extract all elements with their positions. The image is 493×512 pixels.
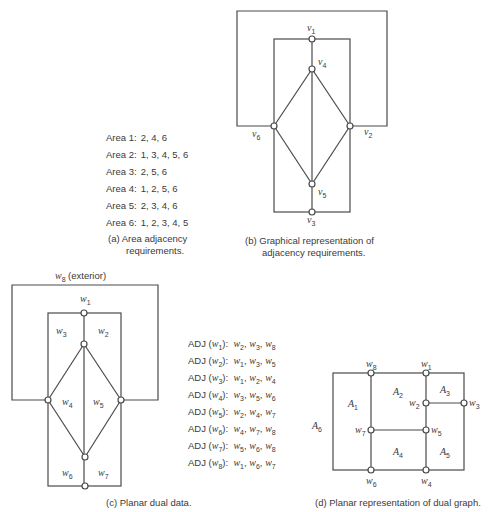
caption-b: (b) Graphical representation of adjacenc… — [245, 235, 374, 259]
dual-adjacency-list: ADJ (w1): w2, w3, w8 ADJ (w2): w1, w3, w… — [188, 338, 276, 474]
adj-row: ADJ (w3): w1, w2, w4 — [188, 372, 276, 389]
label-area-a4: A4 — [393, 446, 403, 459]
label-w7: w7 — [98, 467, 109, 480]
label-d-w5: w5 — [431, 424, 442, 437]
adj-row: ADJ (w5): w2, w4, w7 — [188, 406, 276, 423]
label-area-a3: A3 — [440, 384, 450, 397]
node-w7 — [368, 427, 374, 433]
label-v6: v6 — [252, 128, 260, 141]
node-v1 — [309, 36, 315, 42]
caption-c: (c) Planar dual data. — [106, 497, 192, 509]
area-row: Area 1:2, 4, 6 — [106, 132, 188, 149]
label-area-a6: A6 — [312, 420, 322, 433]
adj-row: ADJ (w1): w2, w3, w8 — [188, 338, 276, 355]
label-w8-exterior: w8 (exterior) — [55, 270, 106, 283]
label-w6: w6 — [62, 467, 73, 480]
adj-row: ADJ (w8): w1, w6, w7 — [188, 457, 276, 474]
node-w4 — [423, 467, 429, 473]
label-d-w3: w3 — [469, 397, 480, 410]
node-v5 — [309, 181, 315, 187]
area-row: Area 5:2, 3, 4, 6 — [106, 200, 188, 217]
area-row: Area 2:1, 3, 4, 5, 6 — [106, 149, 188, 166]
label-d-w4: w4 — [421, 475, 432, 488]
label-w5: w5 — [93, 396, 104, 409]
node-v6 — [271, 123, 277, 129]
area-row: Area 6:1, 2, 3, 4, 5 — [106, 217, 188, 234]
caption-a: (a) Area adjacency requirements. — [108, 233, 187, 257]
node-w3 — [461, 400, 467, 406]
label-v5: v5 — [318, 186, 326, 199]
node-w6 — [368, 467, 374, 473]
label-d-w6: w6 — [366, 475, 377, 488]
node-v2 — [347, 123, 353, 129]
label-v1: v1 — [307, 22, 315, 35]
adj-row: ADJ (w7): w5, w6, w8 — [188, 440, 276, 457]
label-w2: w2 — [98, 325, 109, 338]
graph-b — [237, 11, 387, 215]
label-d-w7: w7 — [355, 424, 366, 437]
graph-c — [12, 285, 158, 489]
label-d-w1: w1 — [421, 358, 432, 371]
label-w3: w3 — [56, 325, 67, 338]
adj-row: ADJ (w6): w4, w7, w8 — [188, 423, 276, 440]
label-area-a2: A2 — [393, 386, 403, 399]
label-d-w8: w8 — [366, 358, 377, 371]
adj-row: ADJ (w2): w1, w3, w5 — [188, 355, 276, 372]
label-area-a5: A5 — [440, 446, 450, 459]
adj-row: ADJ (w4): w3, w5, w6 — [188, 389, 276, 406]
area-row: Area 4:1, 2, 5, 6 — [106, 183, 188, 200]
label-w4: w4 — [62, 396, 73, 409]
label-v3: v3 — [307, 214, 315, 227]
area-adjacency-list: Area 1:2, 4, 6 Area 2:1, 3, 4, 5, 6 Area… — [106, 132, 188, 234]
label-w1: w1 — [80, 293, 91, 306]
label-v2: v2 — [364, 126, 372, 139]
label-d-w2: w2 — [409, 397, 420, 410]
label-area-a1: A1 — [348, 398, 358, 411]
node-w2 — [423, 400, 429, 406]
caption-d: (d) Planar representation of dual graph. — [315, 497, 481, 509]
area-row: Area 3:2, 5, 6 — [106, 166, 188, 183]
label-v4: v4 — [318, 56, 326, 69]
node-v4 — [309, 66, 315, 72]
node-w5 — [423, 427, 429, 433]
